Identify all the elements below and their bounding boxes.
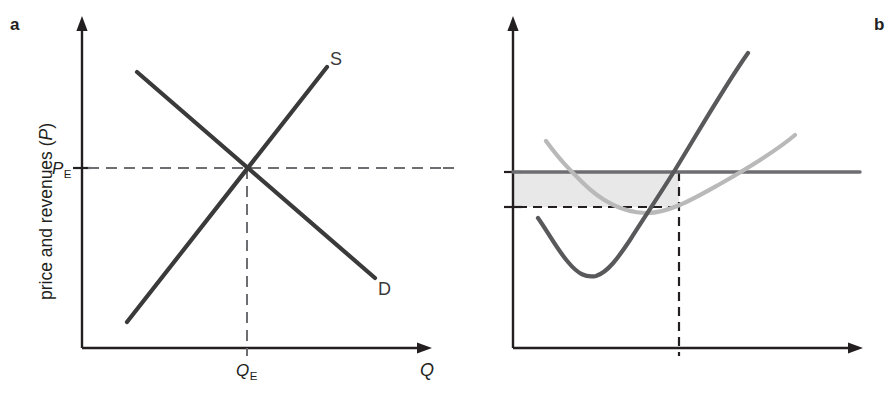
demand-curve [137,72,375,278]
y-axis-title-a-var: P [36,129,56,141]
supply-curve-label: S [330,50,342,68]
quantity-tick-label-a: QE [236,362,257,379]
quantity-subscript-a: E [250,370,258,382]
economics-figure: a price and revenues (P) Q PE QE S D [0,0,885,399]
panel-letter-a: a [10,16,19,33]
price-symbol-a: P [52,159,63,178]
quantity-symbol-a: Q [236,361,249,380]
price-tick-label-a: PE [52,160,71,177]
y-axis-title-a-suffix: ) [36,123,56,129]
price-subscript-a: E [64,168,72,180]
marginal-cost-curve [538,53,748,276]
x-axis-label-a: Q [420,361,434,379]
x-axis-a [82,342,432,353]
x-axis-b [513,342,863,353]
y-axis-title-a: price and revenues (P) [38,123,56,300]
demand-curve-label: D [378,280,391,298]
supply-curve [127,67,327,322]
panel-b: b price and revenues (P) Q PE ATC QF MC … [443,0,885,399]
panel-b-plot [443,0,885,399]
panel-letter-b: b [874,16,884,33]
y-axis-a [76,16,87,348]
panel-a: a price and revenues (P) Q PE QE S D [0,0,443,399]
panel-a-plot [0,0,443,399]
